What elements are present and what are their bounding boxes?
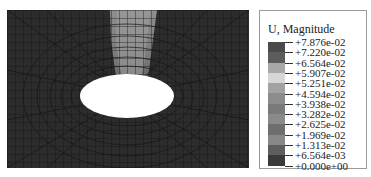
legend-tick — [285, 94, 293, 95]
legend: U, Magnitude +7.876e-02+7.220e-02+6.564e… — [259, 10, 367, 169]
legend-tick — [285, 42, 293, 43]
legend-tick — [285, 83, 293, 84]
legend-tick — [285, 124, 293, 125]
legend-tick — [285, 114, 293, 115]
legend-tick — [285, 166, 293, 167]
legend-swatch — [268, 135, 285, 145]
legend-swatch — [268, 73, 285, 83]
legend-swatch — [268, 145, 285, 155]
legend-swatch — [268, 93, 285, 103]
legend-swatch — [268, 104, 285, 114]
contour-plot — [7, 10, 249, 168]
color-bar — [268, 42, 285, 166]
legend-swatch — [268, 124, 285, 134]
legend-swatch — [268, 83, 285, 93]
legend-swatch — [268, 52, 285, 62]
legend-tick — [285, 63, 293, 64]
legend-tick — [285, 52, 293, 53]
legend-title: U, Magnitude — [268, 22, 335, 37]
legend-swatch — [268, 63, 285, 73]
legend-swatch — [268, 114, 285, 124]
legend-tick — [285, 135, 293, 136]
legend-label: +0.000e+00 — [295, 161, 348, 172]
legend-tick — [285, 145, 293, 146]
elliptical-hole — [80, 74, 174, 118]
legend-tick — [285, 73, 293, 74]
legend-swatch — [268, 42, 285, 52]
legend-swatch — [268, 155, 285, 165]
legend-tick — [285, 155, 293, 156]
legend-tick — [285, 104, 293, 105]
